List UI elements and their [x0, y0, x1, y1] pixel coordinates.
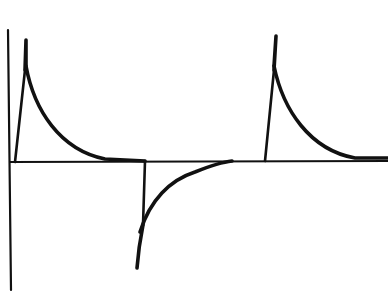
pulse-1-decay	[26, 66, 145, 161]
positive-pulse-1	[15, 40, 145, 162]
vertical-axis	[8, 30, 11, 290]
negative-pulse-2	[137, 161, 232, 268]
pulse-1-rise	[15, 70, 25, 162]
waveform-diagram	[0, 0, 388, 294]
pulse-3-decay	[274, 66, 388, 158]
pulse-3-rise	[265, 70, 274, 161]
horizontal-axis	[10, 161, 388, 162]
positive-pulse-3	[265, 36, 388, 161]
pulse-2-recover	[140, 161, 232, 232]
